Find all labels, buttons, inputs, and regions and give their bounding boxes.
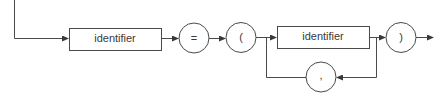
close-paren-label: )	[386, 32, 416, 43]
open-paren-label: (	[226, 32, 256, 43]
comma-label: ,	[306, 70, 336, 81]
equals-label: =	[179, 33, 209, 44]
entry-line	[15, 0, 69, 39]
railroad-diagram	[0, 0, 440, 100]
identifier-label-1: identifier	[69, 33, 161, 44]
identifier-label-2: identifier	[277, 31, 369, 42]
